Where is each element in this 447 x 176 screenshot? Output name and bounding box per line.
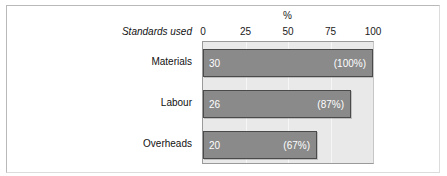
x-tick-label: 100 [365,26,382,37]
x-tick-label: 50 [282,26,293,37]
bar-percent-label: (87%) [317,98,344,109]
bar-value-label: 20 [209,139,220,150]
x-axis-title: % [202,10,373,21]
plot-area: 30(100%)26(87%)20(67%) [202,41,374,164]
x-tick-label: 0 [200,26,206,37]
category-label-materials: Materials [60,56,192,67]
category-label-labour: Labour [60,97,192,108]
bar-overheads[interactable]: 20(67%) [203,131,317,159]
bar-value-label: 30 [209,57,220,68]
x-tick-label-group: 0255075100 [202,26,373,40]
bar-value-label: 26 [209,98,220,109]
x-tick-label: 25 [240,26,251,37]
bar-materials[interactable]: 30(100%) [203,49,373,77]
category-label-overheads: Overheads [60,138,192,149]
bar-percent-label: (100%) [334,57,366,68]
x-tick-label: 75 [325,26,336,37]
bar-percent-label: (67%) [283,139,310,150]
figure-canvas: % Standards used 0255075100 30(100%)26(8… [0,0,447,176]
bar-labour[interactable]: 26(87%) [203,90,351,118]
y-axis-caption: Standards used [86,26,192,37]
